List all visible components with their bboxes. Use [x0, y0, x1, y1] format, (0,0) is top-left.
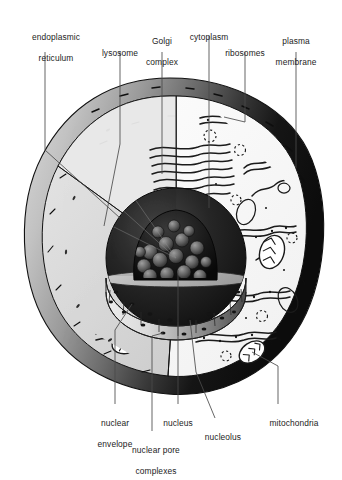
label-nuclear-pore-complexes: nuclear pore complexes — [110, 435, 202, 480]
label-line: nuclear — [80, 418, 150, 428]
label-line: complex — [129, 57, 195, 67]
label-nucleolus: nucleolus — [190, 422, 256, 453]
label-plasma-membrane: plasma membrane — [258, 26, 334, 78]
label-line: complexes — [110, 466, 202, 476]
label-mitochondria: mitochondria — [250, 408, 338, 439]
label-line: membrane — [258, 57, 334, 67]
label-line: plasma — [258, 36, 334, 46]
label-line: mitochondria — [250, 418, 338, 428]
label-line: nucleolus — [190, 432, 256, 442]
label-line: nuclear pore — [110, 445, 202, 455]
